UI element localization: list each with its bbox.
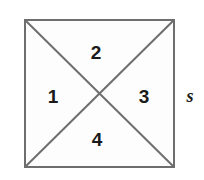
side-length-label-s: s [186, 87, 193, 105]
region-label-2: 2 [91, 43, 102, 62]
figure-container: 1 2 3 4 s [0, 0, 204, 180]
square-diagram-svg [0, 0, 204, 180]
region-label-4: 4 [92, 130, 103, 149]
region-label-1: 1 [48, 87, 59, 106]
region-label-3: 3 [139, 87, 150, 106]
